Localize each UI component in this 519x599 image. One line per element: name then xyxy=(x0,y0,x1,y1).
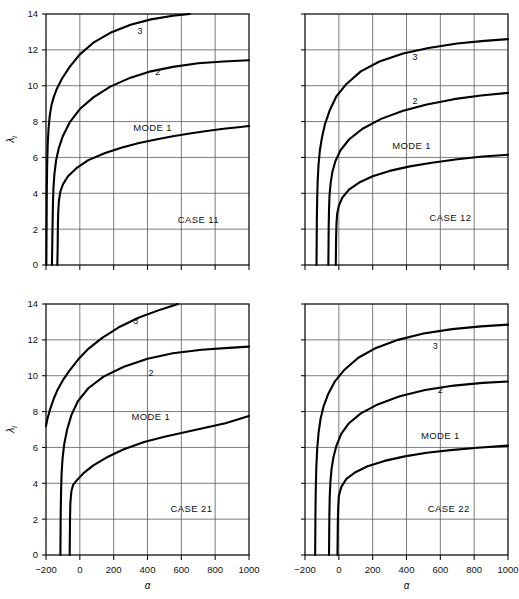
x-tick-label: 800 xyxy=(207,564,223,575)
y-tick-label: 0 xyxy=(33,259,38,270)
x-tick-label: 1000 xyxy=(238,564,259,575)
case-label: CASE 12 xyxy=(430,212,472,223)
y-tick-label: 8 xyxy=(33,116,38,127)
curve-mode-1 xyxy=(57,126,249,265)
case-label: CASE 21 xyxy=(171,503,213,514)
mode-1-label: MODE 1 xyxy=(421,430,460,441)
curve-number-label: 3 xyxy=(433,341,438,351)
x-tick-label: 0 xyxy=(336,564,341,575)
y-tick-label: 4 xyxy=(33,478,38,489)
x-tick-label: 1000 xyxy=(497,564,518,575)
mode-1-label: MODE 1 xyxy=(131,411,170,422)
y-tick-label: 12 xyxy=(27,334,38,345)
y-tick-label: 6 xyxy=(33,442,38,453)
grid-lines xyxy=(46,304,249,555)
curve-mode-2 xyxy=(60,347,249,555)
grid-lines xyxy=(46,14,249,265)
curve-mode-3 xyxy=(46,304,178,426)
curve-number-label: 3 xyxy=(137,26,142,36)
curve-mode-1 xyxy=(70,416,249,555)
chart-panel-case-11: 02468101214λiCASE 11MODE 123 xyxy=(0,0,260,300)
x-tick-label: 800 xyxy=(466,564,482,575)
curve-mode-2 xyxy=(329,381,508,555)
curve-number-label: 3 xyxy=(133,316,138,326)
x-tick-label: 400 xyxy=(399,564,415,575)
x-tick-label: 600 xyxy=(173,564,189,575)
curve-mode-2 xyxy=(328,93,508,265)
y-tick-label: 4 xyxy=(33,188,38,199)
curve-number-label: 2 xyxy=(412,96,417,106)
y-axis-title-symbol: λi xyxy=(5,426,18,434)
x-tick-label: 600 xyxy=(432,564,448,575)
y-tick-label: 6 xyxy=(33,152,38,163)
case-label: CASE 11 xyxy=(178,214,219,225)
x-axis-title: α xyxy=(145,580,151,590)
curve-mode-1 xyxy=(336,155,508,265)
mode-1-label: MODE 1 xyxy=(392,140,431,151)
x-axis-title: α xyxy=(404,580,410,590)
curve-mode-3 xyxy=(317,39,509,265)
y-tick-label: 10 xyxy=(27,80,38,91)
grid-lines xyxy=(305,304,508,555)
chart-panel-case-21: 02468101214−20002004006008001000αλiCASE … xyxy=(0,290,260,590)
y-tick-label: 0 xyxy=(33,549,38,560)
y-tick-label: 2 xyxy=(33,514,38,525)
y-tick-label: 14 xyxy=(27,8,38,19)
chart-panel-case-12: CASE 12MODE 123 xyxy=(259,0,519,300)
x-tick-label: 400 xyxy=(140,564,156,575)
curve-number-label: 3 xyxy=(412,52,417,62)
curve-mode-3 xyxy=(46,14,189,265)
mode-1-label: MODE 1 xyxy=(133,122,172,133)
x-tick-label: 200 xyxy=(106,564,122,575)
y-axis-title-symbol: λi xyxy=(5,136,18,144)
x-tick-label: −200 xyxy=(294,564,315,575)
y-tick-label: 10 xyxy=(27,370,38,381)
curve-number-label: 2 xyxy=(438,385,443,395)
y-tick-label: 8 xyxy=(33,406,38,417)
curve-mode-1 xyxy=(337,446,508,555)
curve-number-label: 2 xyxy=(148,368,153,378)
case-label: CASE 22 xyxy=(428,503,470,514)
curve-number-label: 2 xyxy=(155,67,160,77)
y-axis-title: λi xyxy=(5,136,18,144)
x-tick-label: 0 xyxy=(77,564,82,575)
chart-panel-case-22: −20002004006008001000αCASE 22MODE 123 xyxy=(259,290,519,590)
figure-four-panel-eigenvalue-chart: 02468101214λiCASE 11MODE 123 CASE 12MODE… xyxy=(0,0,519,599)
y-tick-label: 14 xyxy=(27,298,38,309)
y-tick-label: 2 xyxy=(33,224,38,235)
y-tick-label: 12 xyxy=(27,44,38,55)
curve-mode-2 xyxy=(52,60,249,265)
x-tick-label: −200 xyxy=(35,564,56,575)
x-tick-label: 200 xyxy=(365,564,381,575)
curve-mode-3 xyxy=(315,325,508,555)
y-axis-title: λi xyxy=(5,426,18,434)
